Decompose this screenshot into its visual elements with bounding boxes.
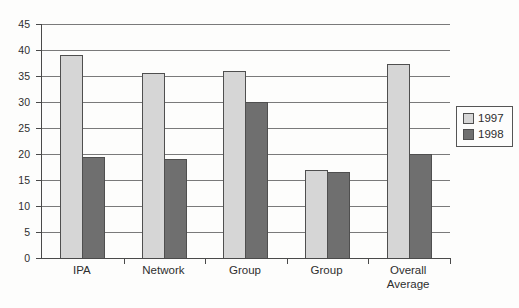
y-tick-label-0: 0	[24, 252, 30, 264]
x-category-label-1: IPA	[41, 263, 123, 291]
x-category-label-5: Overall Average	[367, 263, 449, 291]
y-tick-label-25: 25	[18, 122, 30, 134]
x-axis: IPANetworkGroupGroupOverall Average	[41, 263, 449, 291]
y-axis: 051015202530354045	[0, 24, 33, 258]
x-category-label-2: Network	[123, 263, 205, 291]
bar-chart-figure: 051015202530354045 IPANetworkGroupGroupO…	[0, 0, 519, 308]
y-tick-label-40: 40	[18, 44, 30, 56]
y-tick-label-35: 35	[18, 70, 30, 82]
x-category-label-4: Group	[286, 263, 368, 291]
y-tick-label-20: 20	[18, 148, 30, 160]
legend-item-1997: 1997	[463, 112, 504, 125]
bar-1997-overall-average	[387, 64, 410, 258]
y-tick-label-5: 5	[24, 226, 30, 238]
bar-1997-group	[305, 170, 328, 258]
bar-1998-overall-average	[409, 154, 432, 258]
bar-1998-group	[327, 172, 350, 258]
bar-group-2	[124, 24, 206, 258]
legend-label-1997: 1997	[478, 112, 504, 125]
bar-group-3	[205, 24, 287, 258]
bar-1997-network	[142, 73, 165, 258]
plot-area	[41, 24, 450, 259]
bar-group-5	[368, 24, 450, 258]
bar-1998-network	[164, 159, 187, 258]
bar-group-1	[42, 24, 124, 258]
y-tick-label-10: 10	[18, 200, 30, 212]
x-category-label-3: Group	[204, 263, 286, 291]
bar-group-4	[287, 24, 369, 258]
legend-item-1998: 1998	[463, 128, 504, 141]
y-tick-label-15: 15	[18, 174, 30, 186]
bar-1998-ipa	[82, 157, 105, 258]
bar-1997-group	[223, 71, 246, 258]
legend-swatch-1998	[463, 129, 474, 140]
bar-1997-ipa	[60, 55, 83, 258]
y-tick-0	[36, 258, 42, 259]
legend-label-1998: 1998	[478, 128, 504, 141]
y-tick-label-30: 30	[18, 96, 30, 108]
x-tick-5	[450, 258, 451, 264]
bar-1998-group	[245, 102, 268, 258]
legend-swatch-1997	[463, 113, 474, 124]
legend: 1997 1998	[456, 106, 513, 147]
y-tick-label-45: 45	[18, 18, 30, 30]
